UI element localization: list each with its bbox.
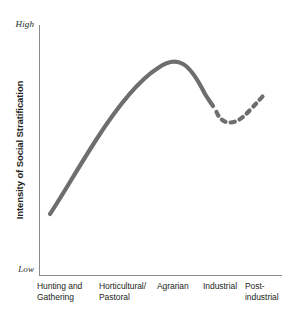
x-axis-label-post-industrial: Post- industrial <box>245 281 294 302</box>
stratification-curve-dashed <box>217 95 265 123</box>
y-axis-title: Intensity of Social Stratification <box>14 65 28 235</box>
x-axis-label-hunting-and-gathering: Hunting and Gathering <box>37 281 97 302</box>
x-axis-label-horticultural-pastoral: Horticultural/ Pastoral <box>99 281 161 302</box>
stratification-curve-solid <box>50 62 213 214</box>
chart-plot-area <box>0 0 294 320</box>
social-stratification-chart: High Low Intensity of Social Stratificat… <box>0 0 294 320</box>
y-axis-high-label: High <box>0 19 34 29</box>
x-axis-label-agrarian: Agrarian <box>157 281 203 292</box>
x-axis-label-industrial: Industrial <box>203 281 247 292</box>
y-axis-low-label: Low <box>0 264 34 274</box>
